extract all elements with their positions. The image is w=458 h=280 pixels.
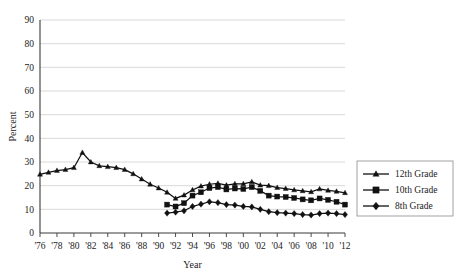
marker-square	[292, 195, 297, 200]
x-axis-tick-label: '12	[339, 241, 350, 251]
x-axis-tick-label: '96	[204, 241, 215, 251]
y-axis-tick-label: 90	[25, 15, 35, 25]
marker-square	[266, 193, 271, 198]
legend: 12th Grade10th Grade8th Grade	[357, 161, 453, 216]
marker-diamond	[207, 199, 212, 205]
marker-diamond	[198, 201, 203, 207]
series-8th-grade	[165, 199, 348, 219]
marker-square	[207, 186, 212, 191]
y-axis-tick-label: 30	[25, 157, 35, 167]
marker-square	[224, 187, 229, 192]
marker-diamond	[300, 211, 305, 217]
x-axis-tick-label: '06	[289, 241, 300, 251]
marker-square	[326, 197, 331, 202]
marker-square	[173, 204, 178, 209]
legend-label: 10th Grade	[395, 185, 437, 195]
marker-triangle	[249, 179, 254, 184]
marker-diamond	[165, 210, 170, 216]
marker-diamond	[292, 210, 297, 216]
marker-square	[373, 187, 379, 193]
marker-diamond	[224, 201, 229, 207]
marker-diamond	[215, 200, 220, 206]
x-axis-tick-label: '00	[238, 241, 249, 251]
marker-triangle	[80, 150, 85, 155]
y-axis-tick-label: 20	[25, 181, 35, 191]
marker-diamond	[241, 203, 246, 209]
x-axis-title: Year	[183, 259, 202, 270]
y-axis-tick-label: 0	[29, 228, 34, 238]
marker-diamond	[258, 206, 263, 212]
x-axis-tick-label: '98	[221, 241, 232, 251]
marker-diamond	[317, 210, 322, 216]
x-axis-tick-label: '04	[272, 241, 283, 251]
x-axis-tick-label: '02	[255, 241, 266, 251]
x-axis-tick-label: '80	[68, 241, 79, 251]
marker-diamond	[275, 210, 280, 216]
gridlines	[40, 20, 345, 209]
marker-square	[190, 193, 195, 198]
y-axis-tick-label: 70	[25, 63, 35, 73]
marker-square	[309, 198, 314, 203]
y-axis-tick-label: 50	[25, 110, 35, 120]
y-axis-tick-label: 40	[25, 134, 35, 144]
x-axis-tick-label: '76	[34, 241, 45, 251]
marker-square	[198, 190, 203, 195]
marker-square	[232, 186, 237, 191]
x-axis-tick-label: '92	[170, 241, 181, 251]
marker-square	[300, 197, 305, 202]
y-axis-tick-label: 60	[25, 86, 35, 96]
y-axis-tick-label: 10	[25, 205, 35, 215]
marker-square	[275, 194, 280, 199]
marker-square	[165, 202, 170, 207]
series-12th-grade	[38, 150, 348, 200]
marker-diamond	[334, 210, 339, 216]
marker-diamond	[342, 211, 347, 217]
line-chart: 0102030405060708090'76'78'80'82'84'86'88…	[0, 0, 458, 280]
x-axis-tick-label: '10	[322, 241, 333, 251]
marker-square	[182, 201, 187, 206]
marker-square	[249, 185, 254, 190]
marker-square	[283, 195, 288, 200]
x-axis-tick-label: '08	[306, 241, 317, 251]
x-axis-tick-label: '88	[136, 241, 147, 251]
marker-diamond	[181, 208, 186, 214]
x-axis-tick-label: '78	[51, 241, 62, 251]
marker-triangle	[317, 186, 322, 191]
x-axis-tick-label: '86	[119, 241, 130, 251]
marker-square	[343, 202, 348, 207]
x-axis-tick-label: '84	[102, 241, 113, 251]
x-axis-tick-label: '94	[187, 241, 198, 251]
legend-label: 8th Grade	[395, 201, 433, 211]
y-axis-title: Percent	[7, 111, 18, 141]
legend-label: 12th Grade	[395, 169, 437, 179]
marker-square	[241, 186, 246, 191]
marker-square	[215, 185, 220, 190]
x-axis-tick-label: '90	[153, 241, 164, 251]
marker-diamond	[283, 210, 288, 216]
marker-diamond	[232, 202, 237, 208]
y-axis-tick-label: 80	[25, 39, 35, 49]
marker-diamond	[325, 210, 330, 216]
marker-square	[334, 199, 339, 204]
marker-square	[258, 188, 263, 193]
chart-page: 0102030405060708090'76'78'80'82'84'86'88…	[0, 0, 458, 280]
marker-diamond	[190, 203, 195, 209]
marker-diamond	[309, 212, 314, 218]
marker-diamond	[173, 209, 178, 215]
marker-square	[317, 196, 322, 201]
x-axis-tick-label: '82	[85, 241, 96, 251]
